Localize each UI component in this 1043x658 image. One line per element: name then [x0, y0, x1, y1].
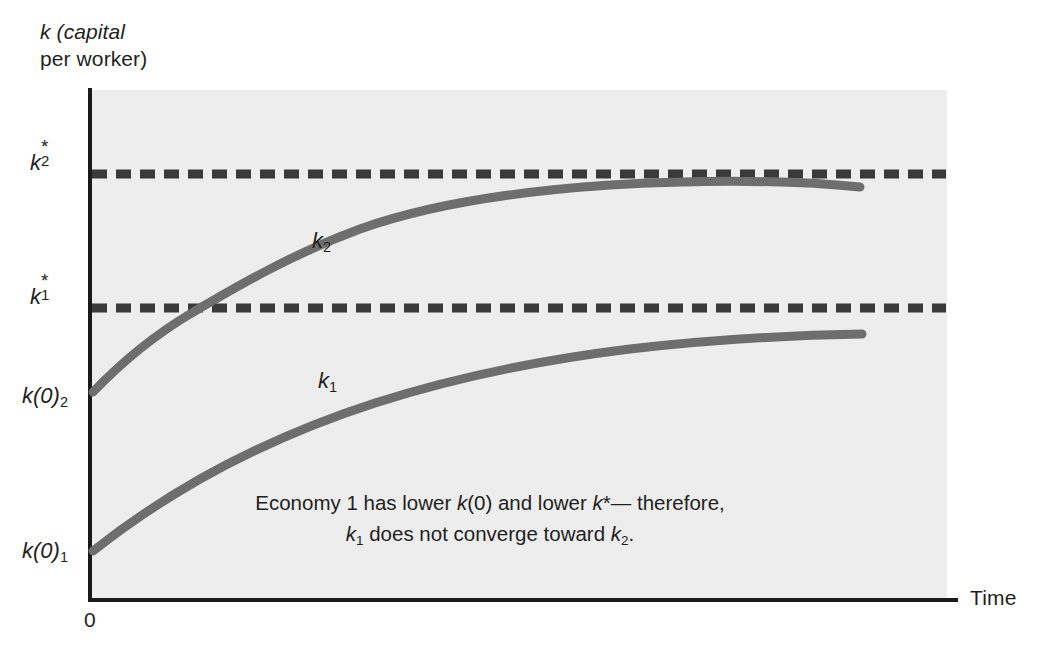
chart-overlay	[0, 0, 1043, 658]
k0-2-subscript: 2	[60, 394, 68, 410]
y-axis-title-line1: k (capital	[40, 20, 125, 43]
curve-k2	[93, 181, 860, 392]
curve-label-k1-subscript: 1	[329, 379, 337, 395]
origin-label: 0	[84, 608, 96, 632]
k0-1-subscript: 1	[60, 549, 68, 565]
curve-label-k2-subscript: 2	[323, 239, 331, 255]
annotation-text: Economy 1 has lower k(0) and lower k*— t…	[250, 487, 730, 556]
y-axis-title-line2: per worker)	[40, 47, 147, 70]
tick-label-k0-1: k(0)1	[22, 538, 68, 565]
tick-label-k1-star: k*1	[30, 282, 53, 310]
curve-label-k2: k2	[312, 228, 331, 255]
y-axis-title: k (capital per worker)	[40, 18, 147, 72]
tick-label-k2-star: k*2	[30, 148, 53, 176]
annotation-line1: Economy 1 has lower k(0) and lower k*—	[255, 491, 631, 514]
x-axis-title: Time	[970, 586, 1017, 610]
k1-star-subscript: 1	[41, 286, 49, 303]
tick-label-k0-2: k(0)2	[22, 383, 68, 410]
figure-solow-convergence: k (capital per worker) Time 0 k*2 k*1 k(…	[0, 0, 1043, 658]
curve-label-k1: k1	[318, 368, 337, 395]
k2-star-subscript: 2	[41, 152, 49, 169]
